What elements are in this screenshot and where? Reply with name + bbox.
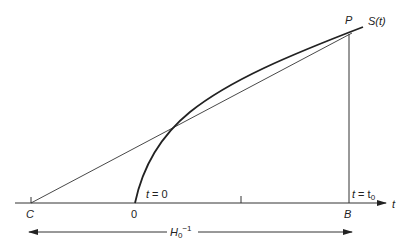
label-origin: 0 [131,208,137,220]
label-p: P [345,14,353,26]
scale-factor-curve [135,27,363,203]
label-s-of-t: S(t) [368,15,386,27]
label-hubble-time: H0−1 [170,224,192,240]
label-t-equals-zero: t = 0 [146,188,168,200]
tangent-line [31,33,352,203]
label-t-equals-t0: t = t0 [352,188,376,202]
label-b: B [344,208,351,220]
label-t-axis: t [392,198,396,210]
label-c: C [26,208,34,220]
hubble-time-diagram: P S(t) C 0 B t t = 0 t = t0 H0−1 [0,0,408,250]
